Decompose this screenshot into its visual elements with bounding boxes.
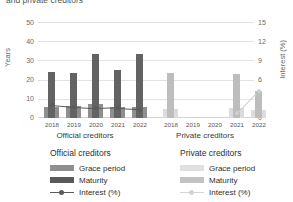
- y-axis-right-tick-12: 12: [258, 38, 276, 45]
- legend-label-interest-private: Interest (%): [209, 188, 250, 197]
- interest-marker-official-2021: [116, 106, 120, 110]
- legend-item-interest-private: Interest (%): [180, 186, 293, 198]
- gridline-50: [38, 22, 254, 23]
- y-axis-left-tick-40: 40: [18, 38, 34, 45]
- legend-label-maturity-private: Maturity: [209, 176, 237, 185]
- y-axis-left-tick-30: 30: [18, 57, 34, 64]
- y-axis-left-label: Years: [4, 48, 12, 67]
- legend-heading-official: Official creditors: [50, 148, 168, 158]
- bar-maturity-private-2018: [167, 73, 174, 118]
- y-axis-left-tick-10: 10: [18, 95, 34, 102]
- group-label-private: Private creditors: [145, 131, 265, 140]
- y-axis-right-tick-6: 6: [258, 76, 276, 83]
- y-axis-right-tick-9: 9: [258, 57, 276, 64]
- bar-maturity-official-2018: [48, 72, 55, 118]
- x-tick-official-2019: 2019: [63, 121, 85, 128]
- legend-label-grace-private: Grace period: [209, 164, 255, 173]
- legend-label-maturity-official: Maturity: [79, 176, 107, 185]
- legend-swatch-grace-private: [180, 165, 204, 171]
- x-tick-private-2019: 2019: [182, 121, 204, 128]
- x-tick-official-2022: 2022: [129, 121, 151, 128]
- y-axis-right-tick-15: 15: [258, 19, 276, 26]
- legend-swatch-interest-private: [180, 189, 204, 195]
- legend-label-grace-official: Grace period: [79, 164, 125, 173]
- legend-item-maturity-private: Maturity: [180, 174, 293, 186]
- legend-swatch-maturity-official: [50, 177, 74, 183]
- x-tick-private-2018: 2018: [160, 121, 182, 128]
- chart-legend: Official creditors Grace period Maturity…: [0, 148, 293, 202]
- bar-maturity-private-2022: [255, 91, 262, 118]
- legend-group-private: Private creditors Grace period Maturity …: [158, 148, 293, 198]
- chart-root: and private creditors 50 40 30 20 10 0 1…: [0, 0, 293, 202]
- group-label-official: Official creditors: [25, 131, 145, 140]
- y-axis-left-tick-20: 20: [18, 76, 34, 83]
- x-tick-official-2021: 2021: [107, 121, 129, 128]
- x-tick-private-2020: 2020: [204, 121, 226, 128]
- legend-swatch-interest-official: [50, 189, 74, 195]
- y-axis-left-tick-0: 0: [18, 114, 34, 121]
- plot-area: [38, 22, 254, 118]
- legend-item-maturity-official: Maturity: [50, 174, 168, 186]
- interest-marker-private-2022: [257, 89, 261, 93]
- gridline-30: [38, 60, 254, 61]
- legend-group-official: Official creditors Grace period Maturity…: [28, 148, 168, 198]
- legend-item-grace-private: Grace period: [180, 162, 293, 174]
- legend-item-grace-official: Grace period: [50, 162, 168, 174]
- x-tick-private-2021: 2021: [226, 121, 248, 128]
- chart-title: and private creditors: [6, 0, 236, 5]
- x-tick-official-2020: 2020: [85, 121, 107, 128]
- bar-maturity-official-2019: [70, 73, 77, 118]
- legend-label-interest-official: Interest (%): [79, 188, 120, 197]
- y-axis-left-tick-50: 50: [18, 19, 34, 26]
- x-tick-private-2022: 2022: [248, 121, 270, 128]
- legend-heading-private: Private creditors: [180, 148, 293, 158]
- legend-swatch-grace-official: [50, 165, 74, 171]
- y-axis-right-label: Interest (%): [279, 40, 287, 79]
- interest-marker-private-2021: [235, 111, 239, 115]
- legend-swatch-maturity-private: [180, 177, 204, 183]
- bar-maturity-official-2021: [114, 70, 121, 118]
- x-tick-official-2018: 2018: [41, 121, 63, 128]
- gridline-40: [38, 41, 254, 42]
- legend-item-interest-official: Interest (%): [50, 186, 168, 198]
